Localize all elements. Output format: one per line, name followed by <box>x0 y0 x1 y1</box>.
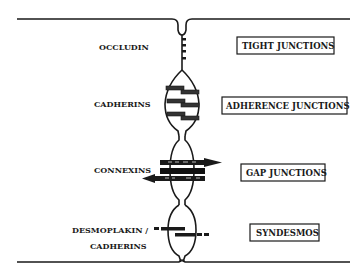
gap-junctions-label: GAP JUNCTIONS <box>246 168 327 178</box>
adherence-junctions-label: ADHERENCE JUNCTIONS <box>225 101 350 111</box>
desmoplakin-plaques-icon <box>154 227 209 237</box>
adherence-junctions-box: ADHERENCE JUNCTIONS <box>222 97 350 114</box>
apical-membrane <box>17 19 350 35</box>
tight-junctions-box: TIGHT JUNCTIONS <box>237 37 334 54</box>
cadherin-pairs-icon <box>166 86 199 120</box>
connexins-label: CONNEXINS <box>94 165 151 175</box>
connexin-channels-icon <box>142 158 222 183</box>
syndesmos-label: SYNDESMOS <box>256 228 319 238</box>
desmoplakin-label: DESMOPLAKIN / <box>72 225 148 235</box>
syndesmos-box: SYNDESMOS <box>250 224 319 241</box>
desmoplakin-cadherins-label: CADHERINS <box>90 241 147 251</box>
occludin-label: OCCLUDIN <box>99 42 149 52</box>
gap-junctions-box: GAP JUNCTIONS <box>241 164 327 181</box>
cell-junctions-diagram: OCCLUDIN CADHERINS CONNEXINS DESMOPLAKIN… <box>0 0 361 275</box>
cadherins-label: CADHERINS <box>94 99 151 109</box>
tight-junctions-label: TIGHT JUNCTIONS <box>242 41 334 51</box>
